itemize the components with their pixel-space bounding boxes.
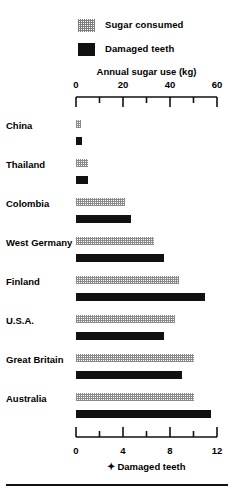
bottom-axis-title-text: Damaged teeth	[117, 461, 185, 472]
top-axis-tick-3: 60	[212, 80, 223, 90]
sugar-vs-damaged-teeth-chart: Sugar consumed Damaged teeth Annual suga…	[0, 0, 234, 492]
legend-item-damaged-teeth: Damaged teeth	[78, 40, 228, 58]
bottom-axis-tick-labels: 04812	[0, 446, 234, 458]
bar-damaged-teeth	[76, 410, 211, 418]
legend-swatch-stipple-icon	[78, 19, 95, 32]
bar-sugar-consumed	[76, 315, 175, 323]
top-axis-tick-0: 0	[73, 80, 78, 90]
bar-damaged-teeth	[76, 293, 205, 301]
bar-damaged-teeth	[76, 137, 82, 145]
top-axis-tick-1: 20	[118, 80, 129, 90]
damaged-teeth-marker-icon: ✦	[107, 461, 115, 472]
bar-damaged-teeth	[76, 371, 182, 379]
category-label-china: China	[6, 121, 32, 131]
bar-damaged-teeth	[76, 176, 88, 184]
category-label-finland: Finland	[6, 277, 40, 287]
bar-sugar-consumed	[76, 159, 88, 167]
bar-sugar-consumed	[76, 276, 179, 284]
bar-sugar-consumed	[76, 120, 81, 128]
legend-label-sugar-consumed: Sugar consumed	[105, 20, 183, 30]
legend-item-sugar-consumed: Sugar consumed	[78, 16, 228, 34]
category-label-australia: Australia	[6, 394, 47, 404]
category-label-great-britain: Great Britain	[6, 355, 64, 365]
bottom-axis-tick-1: 4	[120, 446, 125, 456]
bar-sugar-consumed	[76, 237, 154, 245]
top-axis-title: Annual sugar use (kg)	[76, 66, 217, 77]
bar-sugar-consumed	[76, 198, 125, 206]
top-axis-tick-2: 40	[165, 80, 176, 90]
bar-sugar-consumed	[76, 354, 194, 362]
bar-damaged-teeth	[76, 254, 164, 262]
bar-damaged-teeth	[76, 215, 131, 223]
chart-legend: Sugar consumed Damaged teeth	[78, 16, 228, 64]
category-label-u-s-a: U.S.A.	[6, 316, 34, 326]
bar-sugar-consumed	[76, 393, 194, 401]
bottom-axis-tick-0: 0	[73, 446, 78, 456]
legend-swatch-solid-icon	[78, 43, 95, 56]
top-axis-tick-labels: 0204060	[0, 80, 234, 92]
category-label-thailand: Thailand	[6, 160, 45, 170]
legend-label-damaged-teeth: Damaged teeth	[105, 44, 174, 54]
bottom-axis-tick-2: 8	[167, 446, 172, 456]
bottom-axis-title: ✦Damaged teeth	[76, 461, 217, 472]
footer-rule	[6, 484, 228, 486]
category-label-colombia: Colombia	[6, 199, 49, 209]
bar-damaged-teeth	[76, 332, 164, 340]
category-label-west-germany: West Germany	[6, 238, 72, 248]
bottom-axis-tick-3: 12	[212, 446, 223, 456]
